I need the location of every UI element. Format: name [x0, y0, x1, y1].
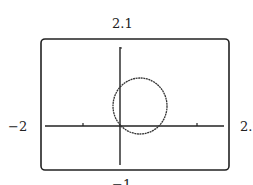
screen-border: [41, 39, 229, 170]
calculator-screen: [0, 0, 253, 185]
